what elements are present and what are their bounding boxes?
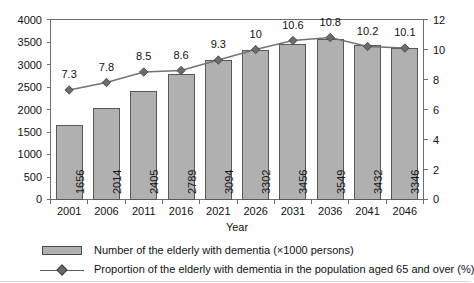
x-axis-tick-label: 2031	[281, 206, 305, 217]
x-axis-tick-label: 2001	[57, 206, 81, 217]
bottom-divider	[0, 281, 470, 282]
line-point-label: 8.6	[173, 50, 188, 61]
y2-axis-tick-12: 12	[433, 15, 445, 26]
bar-value-label: 3302	[261, 169, 272, 193]
line-point-label: 10.8	[320, 17, 341, 28]
y-axis-tick-1000: 1000	[8, 149, 42, 160]
y-axis-tick-3000: 3000	[8, 60, 42, 71]
line-marker	[102, 78, 110, 86]
y-axis-tick-0: 0	[8, 194, 42, 205]
bar-swatch-icon	[38, 244, 86, 258]
x-axis-title: Year	[226, 222, 248, 233]
x-axis-tick-label: 2006	[94, 206, 118, 217]
line-point-label: 7.8	[99, 62, 114, 73]
y2-axis-tick-2: 2	[433, 165, 439, 176]
line-point-label: 10.1	[394, 27, 415, 38]
x-axis-tick-label: 2041	[355, 206, 379, 217]
bar-value-label: 3549	[336, 169, 347, 193]
chart-legend: Number of the elderly with dementia (×10…	[0, 241, 470, 279]
y2-axis-tick-4: 4	[433, 135, 439, 146]
y-axis-tick-2500: 2500	[8, 82, 42, 93]
legend-label-bar: Number of the elderly with dementia (×10…	[94, 245, 354, 256]
line-marker	[140, 68, 148, 76]
line-point-label: 10	[250, 29, 262, 40]
bar-value-label: 2014	[112, 169, 123, 193]
line-marker	[177, 66, 185, 74]
bar-value-label: 3094	[224, 169, 235, 193]
line-marker	[65, 86, 73, 94]
bar-value-label: 3432	[373, 169, 384, 193]
x-axis-tick-label: 2026	[243, 206, 267, 217]
x-axis-tick-label: 2021	[206, 206, 230, 217]
bar-value-label: 3346	[410, 169, 421, 193]
y-axis-tick-500: 500	[8, 172, 42, 183]
legend-label-line: Proportion of the elderly with dementia …	[94, 264, 474, 275]
line-point-label: 8.5	[136, 51, 151, 62]
line-marker	[289, 36, 297, 44]
legend-item-line: Proportion of the elderly with dementia …	[0, 260, 470, 279]
y2-axis-tick-6: 6	[433, 105, 439, 116]
y2-axis-tick-10: 10	[433, 45, 445, 56]
y-axis-tick-1500: 1500	[8, 127, 42, 138]
x-axis-tick-label: 2016	[169, 206, 193, 217]
legend-item-bar: Number of the elderly with dementia (×10…	[0, 241, 470, 260]
line-marker-icon	[38, 263, 86, 277]
y-axis-tick-2000: 2000	[8, 105, 42, 116]
bar-value-label: 2789	[187, 169, 198, 193]
y-axis-tick-4000: 4000	[8, 15, 42, 26]
bar-value-label: 1656	[75, 169, 86, 193]
line-point-label: 10.2	[357, 26, 378, 37]
y-axis-tick-3500: 3500	[8, 37, 42, 48]
line-point-label: 7.3	[61, 69, 76, 80]
y2-axis-tick-8: 8	[433, 75, 439, 86]
bar-value-label: 3456	[298, 169, 309, 193]
bar-value-label: 2405	[149, 169, 160, 193]
line-point-label: 10.6	[282, 20, 303, 31]
x-axis-tick-label: 2036	[318, 206, 342, 217]
y2-axis-tick-0: 0	[433, 194, 439, 205]
line-point-label: 9.3	[211, 39, 226, 50]
x-axis-tick-label: 2011	[132, 206, 156, 217]
x-axis-tick-label: 2046	[393, 206, 417, 217]
